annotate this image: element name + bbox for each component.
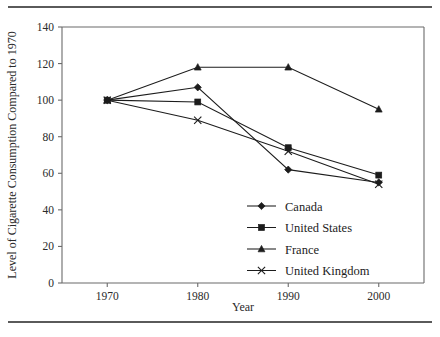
chart-plot-area: 020406080100120140 1970198019902000 Cana… [0, 14, 440, 314]
series-line [107, 67, 379, 109]
y-tick-label: 120 [37, 58, 55, 70]
legend-label: United States [285, 221, 352, 235]
data-series-group [104, 64, 383, 188]
series-france [104, 64, 382, 112]
series-united-kingdom [104, 97, 383, 188]
series-line [107, 87, 379, 182]
line-chart: 020406080100120140 1970198019902000 Cana… [0, 14, 440, 314]
y-tick-label: 80 [43, 131, 55, 143]
marker-square [195, 99, 201, 105]
x-axis-title: Year [232, 300, 254, 314]
marker-square [376, 172, 382, 178]
y-tick-label: 60 [43, 167, 55, 179]
y-tick-label: 140 [37, 21, 55, 33]
y-tick-label: 40 [43, 204, 55, 216]
series-line [107, 100, 379, 175]
marker-square [259, 225, 265, 231]
x-tick-label: 2000 [367, 290, 390, 302]
legend-label: Canada [285, 200, 323, 214]
legend-item[interactable]: Canada [247, 200, 323, 214]
figure-container: 020406080100120140 1970198019902000 Cana… [0, 0, 440, 337]
top-horizontal-rule [8, 6, 432, 8]
x-tick-label: 1990 [277, 290, 300, 302]
x-tick-label: 1980 [186, 290, 209, 302]
marker-x [194, 117, 201, 124]
series-line [107, 100, 379, 184]
legend-item[interactable]: United Kingdom [247, 264, 370, 278]
marker-triangle [375, 106, 382, 112]
y-axis-title: Level of Cigarette Consumption Compared … [5, 31, 19, 278]
bottom-horizontal-rule [8, 321, 432, 323]
chart-legend: CanadaUnited StatesFranceUnited Kingdom [247, 200, 370, 279]
series-united-states [104, 97, 381, 178]
legend-item[interactable]: United States [247, 221, 352, 235]
legend-label: United Kingdom [285, 264, 370, 278]
y-axis-ticks: 020406080100120140 [37, 21, 62, 289]
y-tick-label: 20 [43, 240, 55, 252]
x-tick-label: 1970 [96, 290, 119, 302]
y-tick-label: 0 [48, 277, 54, 289]
y-tick-label: 100 [37, 94, 55, 106]
legend-item[interactable]: France [247, 243, 319, 257]
marker-diamond [258, 202, 265, 209]
legend-label: France [285, 243, 319, 257]
